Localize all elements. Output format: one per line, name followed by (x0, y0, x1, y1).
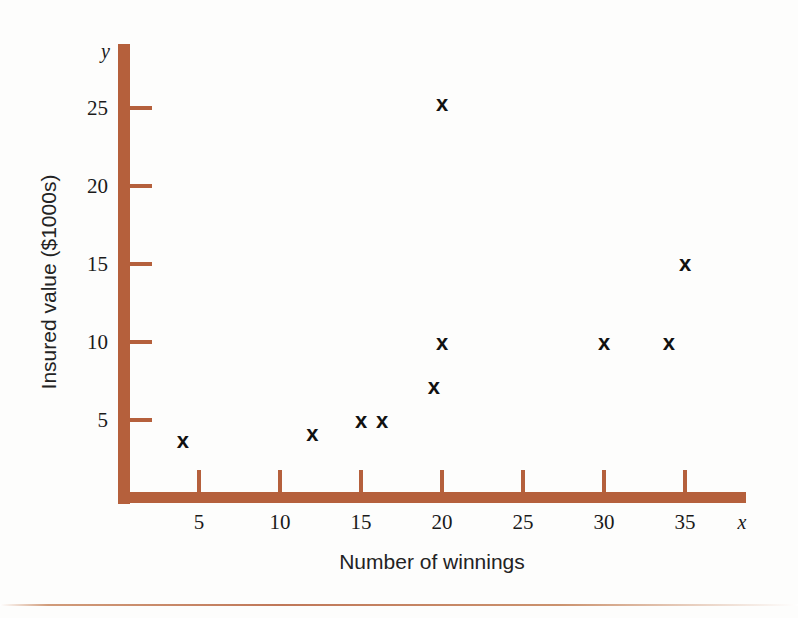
data-point-marker: x (355, 408, 368, 433)
y-tick-label-10: 10 (87, 330, 108, 354)
data-point-marker: x (376, 408, 389, 433)
x-tick-label-20: 20 (432, 510, 453, 534)
data-points-layer: xxxxxxxxxx (177, 91, 692, 454)
y-tick-label-20: 20 (87, 174, 108, 198)
y-axis-ticks (130, 106, 152, 422)
x-tick-label-15: 15 (351, 510, 372, 534)
x-tick-label-5: 5 (194, 510, 205, 534)
x-tick-label-30: 30 (594, 510, 615, 534)
x-tick-label-35: 35 (675, 510, 696, 534)
y-tick-label-15: 15 (87, 252, 108, 276)
data-point-marker: x (436, 91, 449, 116)
scatter-plot-figure: 5 10 15 20 25 5 10 15 20 25 30 35 y x Nu… (0, 0, 798, 618)
bottom-rule (0, 604, 798, 606)
plot-canvas: 5 10 15 20 25 5 10 15 20 25 30 35 y x Nu… (0, 0, 798, 618)
x-tick-label-10: 10 (270, 510, 291, 534)
x-axis-ticks (197, 470, 687, 492)
data-point-marker: x (679, 251, 692, 276)
y-axis-line (118, 44, 130, 504)
data-point-marker: x (177, 428, 190, 453)
x-tick-label-25: 25 (513, 510, 534, 534)
y-tick-label-5: 5 (98, 408, 109, 432)
y-axis-variable-label: y (99, 40, 110, 63)
x-axis-line (118, 492, 746, 503)
data-point-marker: x (436, 330, 449, 355)
y-tick-label-25: 25 (87, 96, 108, 120)
data-point-marker: x (598, 330, 611, 355)
x-axis-variable-label: x (737, 511, 747, 533)
data-point-marker: x (428, 374, 441, 399)
data-point-marker: x (306, 421, 319, 446)
y-axis-title: Insured value ($1000s) (37, 175, 60, 390)
x-axis-title: Number of winnings (339, 550, 525, 573)
data-point-marker: x (663, 330, 676, 355)
